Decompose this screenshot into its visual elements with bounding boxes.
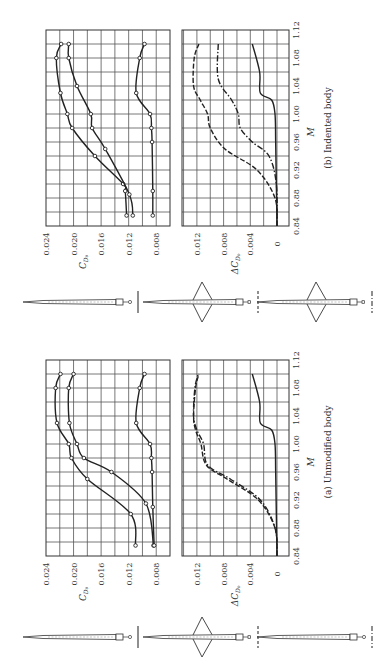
caption-b: (b) Indented body — [323, 86, 333, 168]
cd0-label-a: CD₀ — [78, 586, 89, 601]
data-point — [93, 154, 97, 158]
data-point — [150, 470, 154, 474]
dcd0-tick-label: 0 — [273, 571, 282, 576]
data-point — [151, 189, 155, 193]
data-point — [110, 470, 114, 474]
data-point — [144, 502, 148, 506]
data-point — [70, 456, 74, 460]
y-ticks-a: 0.0240.0200.0160.0120.0080.0120.0080.004… — [42, 563, 282, 586]
dcd0-tick-label: 0.012 — [193, 233, 202, 256]
m-tick-label: 0.84 — [292, 217, 301, 235]
m-tick-label: 1.04 — [292, 77, 301, 95]
data-point — [55, 56, 59, 60]
cd0-tick-label: 0.024 — [42, 233, 51, 256]
config-icon-body-alone-b — [23, 291, 138, 313]
data-point — [134, 544, 138, 548]
data-point — [86, 477, 90, 481]
data-point — [75, 84, 79, 88]
dcd0-tick-label: 0.004 — [246, 233, 255, 256]
data-series — [194, 374, 277, 556]
data-point — [148, 112, 152, 116]
dcd0-tick-label: 0 — [273, 241, 282, 246]
cd0-tick-label: 0.008 — [152, 563, 161, 586]
caption-a: (a) Unmodified body — [323, 404, 333, 498]
data-series — [68, 44, 133, 216]
dcd0-tick-label: 0.008 — [220, 563, 229, 586]
data-point — [67, 386, 71, 390]
data-point — [131, 214, 135, 218]
data-point — [59, 91, 63, 95]
data-point — [82, 456, 86, 460]
data-point — [55, 421, 59, 425]
data-series — [193, 44, 277, 226]
m-tick-label: 1.12 — [292, 351, 301, 369]
figure-canvas: 0.840.880.920.961.001.041.081.12 M (b) I… — [0, 0, 379, 664]
m-axis-label-b: M — [306, 127, 316, 138]
data-point — [125, 214, 129, 218]
data-point — [150, 126, 154, 130]
data-point — [72, 372, 76, 376]
m-tick-label: 0.96 — [292, 133, 301, 151]
data-point — [70, 126, 74, 130]
data-point — [134, 421, 138, 425]
cd0-tick-label: 0.016 — [97, 563, 106, 586]
configuration-legend — [23, 282, 372, 657]
m-tick-label: 1.00 — [292, 105, 301, 123]
data-point — [128, 193, 132, 197]
config-icon-body-tail-a — [257, 626, 372, 648]
data-point — [103, 147, 107, 151]
data-point — [138, 56, 142, 60]
dcd0-tick-label: 0.004 — [246, 563, 255, 586]
m-axis-ticks-b: 0.840.880.920.961.001.041.081.12 — [292, 21, 301, 235]
cd0-label-b: CD₀ — [78, 254, 89, 269]
data-point — [89, 112, 93, 116]
cd0-tick-label: 0.024 — [42, 563, 51, 586]
config-icon-body-alone-a — [23, 626, 138, 648]
data-point — [148, 442, 152, 446]
m-tick-label: 0.96 — [292, 463, 301, 481]
panel-unmodified-body: 0.840.880.920.961.001.041.081.12 M (a) U… — [42, 351, 333, 607]
m-tick-label: 1.08 — [292, 49, 301, 67]
data-point — [54, 386, 58, 390]
data-series — [252, 374, 277, 556]
data-series — [68, 374, 153, 546]
m-axis-label-a: M — [306, 457, 316, 468]
data-point — [68, 421, 72, 425]
dcd0-tick-label: 0.008 — [220, 233, 229, 256]
m-tick-label: 1.00 — [292, 435, 301, 453]
panel-indented-body: 0.840.880.920.961.001.041.081.12 M (b) I… — [42, 21, 333, 275]
data-point — [59, 372, 63, 376]
data-point — [143, 372, 147, 376]
data-series — [252, 44, 277, 226]
config-icon-wing-body-a — [143, 617, 258, 657]
cd0-tick-label: 0.020 — [70, 233, 79, 256]
m-tick-label: 0.92 — [292, 491, 301, 509]
data-point — [75, 442, 79, 446]
cd0-tick-label: 0.020 — [70, 563, 79, 586]
cd0-tick-label: 0.012 — [125, 563, 134, 586]
data-point — [143, 42, 147, 46]
m-tick-label: 0.88 — [292, 519, 301, 537]
m-tick-label: 1.12 — [292, 21, 301, 39]
dcd0-tick-label: 0.012 — [193, 563, 202, 586]
data-point — [66, 112, 70, 116]
data-series — [217, 44, 277, 226]
data-point — [129, 512, 133, 516]
data-point — [67, 56, 71, 60]
dcd0-grid-b — [182, 30, 289, 226]
dcd0-label-b: ΔCD₀ — [230, 253, 241, 275]
data-point — [67, 442, 71, 446]
data-series — [55, 374, 136, 546]
m-tick-label: 1.08 — [292, 379, 301, 397]
y-ticks-b: 0.0240.0200.0160.0120.0080.0120.0080.004… — [42, 233, 282, 256]
m-tick-label: 0.84 — [292, 547, 301, 565]
dcd0-label-a: ΔCD₀ — [230, 585, 241, 607]
data-point — [151, 505, 155, 509]
data-point — [67, 42, 71, 46]
cd0-tick-label: 0.016 — [97, 233, 106, 256]
data-point — [151, 214, 155, 218]
m-tick-label: 1.04 — [292, 407, 301, 425]
m-axis-ticks-a: 0.840.880.920.961.001.041.081.12 — [292, 351, 301, 565]
data-point — [134, 91, 138, 95]
data-series — [193, 374, 277, 556]
